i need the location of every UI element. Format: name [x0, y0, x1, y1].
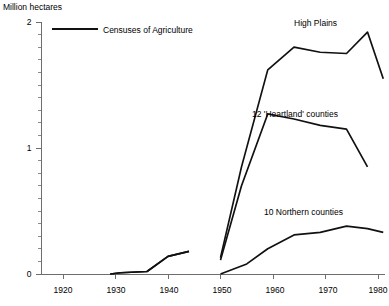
x-tick-label-1930: 1930 — [101, 286, 131, 295]
x-tick-label-1940: 1940 — [154, 286, 184, 295]
series-line-1-0 — [110, 251, 189, 274]
chart-container: Million hectares 2 1 0 1920 1930 1940 19… — [0, 0, 389, 306]
x-tick-label-1920: 1920 — [48, 286, 78, 295]
y-tick-label-2: 2 — [24, 18, 34, 27]
series-line-0-1 — [221, 32, 384, 258]
y-tick-label-0: 0 — [24, 270, 34, 279]
legend-entry-label: Censuses of Agriculture — [103, 26, 193, 35]
series-line-1-1 — [221, 114, 368, 260]
series-label-heartland: 12 'Heartland' counties — [252, 110, 338, 119]
series-line-2-0 — [221, 226, 384, 274]
x-tick-label-1970: 1970 — [313, 286, 343, 295]
x-tick-label-1950: 1950 — [207, 286, 237, 295]
series-label-high-plains: High Plains — [294, 19, 337, 28]
y-tick-label-1: 1 — [24, 144, 34, 153]
x-tick-label-1960: 1960 — [260, 286, 290, 295]
x-tick-label-1980: 1980 — [363, 286, 389, 295]
series-label-northern: 10 Northern counties — [264, 208, 343, 217]
chart-canvas — [0, 0, 389, 306]
